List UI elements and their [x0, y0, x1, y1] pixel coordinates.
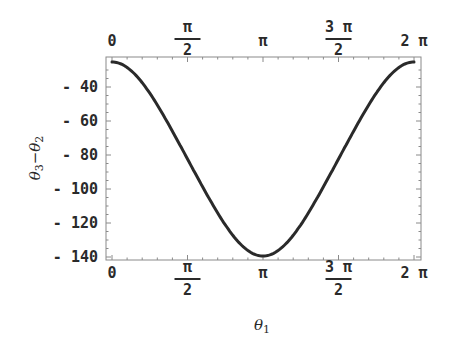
x-tick-label: π — [258, 32, 267, 50]
axis-ticks — [106, 57, 421, 260]
x-tick-label: 2 π — [400, 32, 427, 50]
x-axis-label: θ1 — [254, 316, 270, 336]
x-tick-label: 0 — [107, 264, 116, 282]
y-tick-label: - 100 — [53, 180, 98, 198]
x-tick-label: 3 π — [325, 258, 352, 276]
x-tick-label: 2 — [334, 41, 343, 59]
y-tick-label: - 120 — [53, 214, 98, 232]
x-axis-top-tick-labels: 0π2π3 π22 π — [107, 18, 427, 59]
x-tick-label: π — [258, 264, 267, 282]
x-axis-bottom-tick-labels: 0π2π3 π22 π — [107, 258, 427, 299]
y-tick-label: - 140 — [53, 248, 98, 266]
y-axis-label: θ3−θ2 — [26, 136, 46, 181]
y-tick-label: - 80 — [62, 146, 98, 164]
x-tick-label: π — [183, 258, 192, 276]
y-tick-label: - 60 — [62, 112, 98, 130]
x-tick-label: 2 — [183, 281, 192, 299]
y-tick-label: - 40 — [62, 78, 98, 96]
x-tick-label: 2 — [334, 281, 343, 299]
x-tick-label: 3 π — [325, 18, 352, 36]
x-tick-label: 2 — [183, 41, 192, 59]
plot-frame — [106, 57, 421, 260]
x-tick-label: 0 — [107, 32, 116, 50]
y-axis-tick-labels: - 40- 60- 80- 100- 120- 140 — [53, 78, 98, 266]
x-tick-label: π — [183, 18, 192, 36]
data-curve — [112, 62, 414, 256]
x-tick-label: 2 π — [400, 264, 427, 282]
chart: - 40- 60- 80- 100- 120- 140 0π2π3 π22 π … — [0, 0, 454, 351]
